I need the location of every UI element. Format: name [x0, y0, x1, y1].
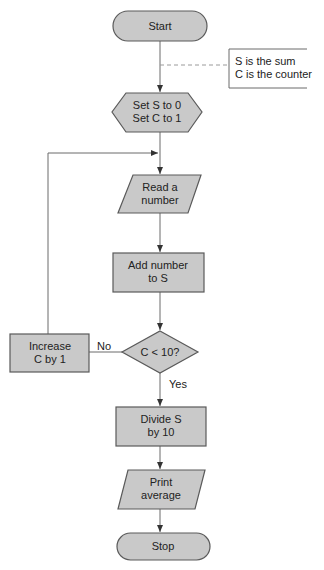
node-divide-line-1: Divide S [141, 413, 182, 426]
node-read-line-2: number [141, 194, 178, 207]
node-start-line-1: Start [148, 20, 171, 33]
node-stop-line-1: Stop [152, 540, 175, 553]
node-add-line-2: to S [128, 272, 188, 285]
node-print-line-2: average [141, 489, 181, 502]
node-init-line-2: Set C to 1 [133, 112, 182, 125]
node-stop-label: Stop [152, 540, 175, 553]
node-read-line-1: Read a [141, 181, 178, 194]
node-print-line-1: Print [141, 476, 181, 489]
annotation-line-1: S is the sum [235, 55, 312, 68]
node-start-label: Start [148, 20, 171, 33]
node-init-label: Set S to 0 Set C to 1 [133, 99, 182, 125]
node-print-label: Print average [141, 476, 181, 502]
node-read-label: Read a number [141, 181, 178, 207]
annotation-text: S is the sum C is the counter [235, 55, 312, 81]
edge-label-no: No [97, 340, 111, 352]
annotation-line-2: C is the counter [235, 68, 312, 81]
node-add-line-1: Add number [128, 259, 188, 272]
node-divide-label: Divide S by 10 [141, 413, 182, 439]
node-decision-line-1: C < 10? [141, 346, 180, 359]
node-increase-line-2: C by 1 [29, 353, 71, 366]
node-divide-line-2: by 10 [141, 426, 182, 439]
edge-label-yes: Yes [169, 378, 187, 390]
node-increase-line-1: Increase [29, 340, 71, 353]
node-decision-label: C < 10? [141, 346, 180, 359]
node-increase-label: Increase C by 1 [29, 340, 71, 366]
node-add-label: Add number to S [128, 259, 188, 285]
node-init-line-1: Set S to 0 [133, 99, 182, 112]
